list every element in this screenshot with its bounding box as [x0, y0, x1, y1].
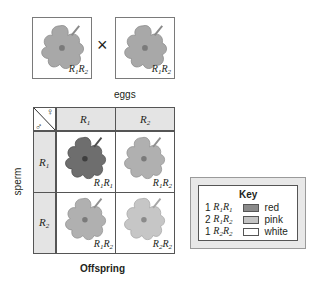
parent-right-box: R1R2 — [115, 17, 175, 79]
cross-symbol: × — [97, 35, 108, 56]
eggs-label: eggs — [114, 89, 136, 100]
key-label: pink — [265, 214, 283, 225]
key-label: red — [265, 202, 279, 213]
offspring-cell-r2r1: R1R2 — [57, 193, 115, 253]
key-label: white — [265, 226, 288, 237]
flower-icon — [61, 195, 107, 241]
column-header-r2: R2 — [140, 113, 150, 127]
cell-genotype: R2R2 — [153, 238, 172, 251]
swatch-red — [243, 204, 259, 212]
flower-icon — [120, 134, 166, 180]
female-symbol-icon: ♀ — [47, 106, 55, 117]
key-genotype: R2R2 — [213, 225, 232, 238]
cell-genotype: R1R2 — [94, 238, 113, 251]
row-header-r2: R2 — [39, 216, 49, 230]
parent-left-genotype: R1R2 — [69, 63, 88, 76]
flower-icon — [61, 134, 107, 180]
offspring-cell-r2r2: R2R2 — [116, 193, 174, 253]
flower-icon — [120, 195, 166, 241]
offspring-label: Offspring — [80, 263, 125, 274]
key-row-white: 1 R2R2 white — [205, 225, 288, 238]
punnett-square: ♀ ♂ R1 R2 R1 R2 R1R1 R1R2 R1R2 — [33, 107, 175, 254]
offspring-cell-r1r2: R1R2 — [116, 132, 174, 192]
key-count: 2 — [205, 214, 211, 225]
cell-genotype: R1R1 — [94, 177, 113, 190]
row-header-r1: R1 — [39, 156, 49, 170]
cell-genotype: R1R2 — [153, 177, 172, 190]
key-title: Key — [239, 189, 257, 200]
key-count: 1 — [205, 226, 211, 237]
key-panel: Key 1 R1R1 red 2 R1R2 pink 1 R2R2 white — [190, 177, 306, 249]
column-header-r1: R1 — [80, 113, 90, 127]
key-count: 1 — [205, 202, 211, 213]
parent-right-genotype: R1R2 — [152, 63, 171, 76]
corner-cell: ♀ ♂ — [34, 108, 56, 131]
swatch-pink — [243, 216, 259, 224]
parent-left-box: R1R2 — [32, 17, 92, 79]
swatch-white — [243, 228, 259, 236]
key-inner: Key 1 R1R1 red 2 R1R2 pink 1 R2R2 white — [198, 185, 298, 241]
sperm-label: sperm — [12, 168, 23, 196]
offspring-cell-r1r1: R1R1 — [57, 132, 115, 192]
